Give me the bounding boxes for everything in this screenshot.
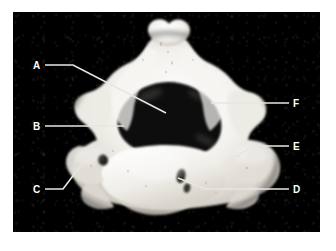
label-a: A (33, 61, 40, 71)
cervical-vertebra-specimen (0, 0, 336, 251)
figure-photograph: A B C D E F (0, 0, 336, 251)
label-d: D (293, 185, 300, 195)
label-c: C (33, 185, 40, 195)
label-f: F (293, 99, 299, 109)
label-e: E (293, 142, 300, 152)
label-b: B (33, 122, 40, 132)
